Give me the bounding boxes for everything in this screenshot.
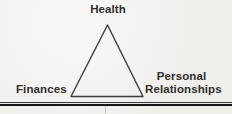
triangle-shape (0, 0, 232, 114)
node-label-finances: Finances (16, 83, 67, 96)
scan-artifact-line (105, 106, 106, 114)
bottom-rule-divider (0, 102, 232, 106)
figure-canvas: Health Finances Personal Relationships (0, 0, 232, 114)
node-label-personal-relationships: Personal Relationships (145, 70, 218, 96)
